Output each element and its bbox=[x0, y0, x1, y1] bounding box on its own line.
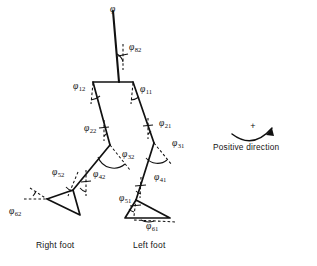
segment-shank-left bbox=[136, 143, 154, 200]
arc-phi62 bbox=[33, 191, 36, 196]
segment-shank-right bbox=[73, 145, 110, 190]
arc-phi12 bbox=[91, 96, 100, 100]
positive-direction-indicator: + bbox=[232, 121, 274, 141]
foot-right bbox=[47, 190, 80, 215]
label-phi82: φ82 bbox=[129, 41, 141, 53]
label-phi21: φ21 bbox=[159, 117, 171, 129]
label-phi22: φ22 bbox=[84, 122, 96, 134]
arc-phi42 bbox=[80, 188, 86, 192]
caption-left-foot: Left foot bbox=[133, 240, 166, 250]
reference-line-foot-right-s bbox=[30, 188, 47, 199]
arc-phi52 bbox=[66, 187, 72, 191]
trunk-apex-symbol: φ bbox=[110, 3, 116, 14]
segment-trunk bbox=[113, 11, 119, 82]
positive-direction-plus: + bbox=[250, 121, 255, 131]
reference-line-hip-left bbox=[131, 83, 133, 104]
reference-line-knee-left bbox=[154, 143, 172, 165]
label-phi62: φ62 bbox=[9, 205, 21, 217]
segment-thigh-right bbox=[93, 82, 110, 145]
reference-line-foot-left bbox=[134, 220, 177, 222]
label-phi32: φ32 bbox=[122, 148, 134, 160]
angle-label-group: φ82 φ12 φ11 φ22 φ21 φ32 φ31 φ52 φ42 φ41 … bbox=[9, 41, 184, 232]
gait-model-diagram: φ + φ82 φ12 φ11 φ22 φ21 φ32 φ31 φ52 φ42 … bbox=[0, 0, 317, 266]
tick-thigh-right bbox=[99, 127, 109, 128]
foot-left bbox=[125, 200, 170, 218]
caption-right-foot: Right foot bbox=[36, 240, 74, 250]
label-phi42: φ42 bbox=[93, 168, 105, 180]
label-phi41: φ41 bbox=[154, 171, 166, 183]
label-phi51: φ51 bbox=[119, 192, 131, 204]
arc-phi32 bbox=[98, 157, 125, 168]
label-phi12: φ12 bbox=[73, 80, 85, 92]
label-phi31: φ31 bbox=[172, 137, 184, 149]
caption-positive-direction: Positive direction bbox=[213, 142, 279, 152]
reference-line-hip-right bbox=[91, 83, 93, 104]
label-phi11: φ11 bbox=[140, 83, 152, 95]
tick-shank-right bbox=[81, 181, 91, 182]
label-phi52: φ52 bbox=[52, 166, 64, 178]
